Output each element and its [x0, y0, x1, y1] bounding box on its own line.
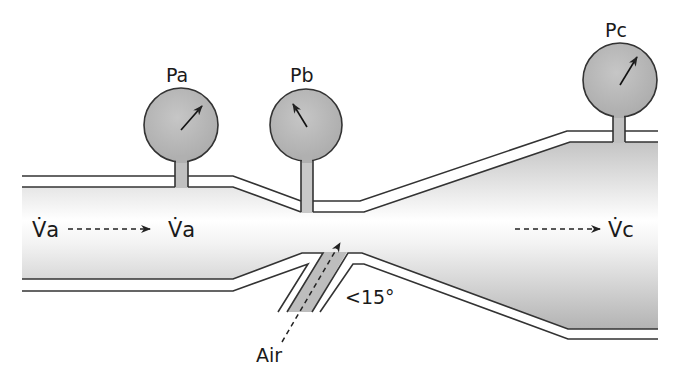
- flow-channel: [22, 142, 658, 329]
- gauge-pa: [144, 88, 218, 163]
- gauge-pb: [270, 89, 342, 163]
- gauge-stem-pb: [301, 155, 313, 213]
- air-label: Air: [256, 344, 282, 366]
- venturi-diagram: Pa Pb Pc V̇a V̇a V̇c Air <15°: [0, 0, 674, 380]
- gauge-label-pb: Pb: [290, 64, 314, 86]
- flow-label-inlet-mid: V̇a: [168, 217, 195, 242]
- flow-label-inlet: V̇a: [32, 217, 59, 242]
- gauge-label-pc: Pc: [605, 19, 627, 41]
- gauge-label-pa: Pa: [166, 64, 188, 86]
- gauge-pc: [583, 43, 657, 118]
- angle-label: <15°: [345, 286, 395, 308]
- flow-label-outlet: V̇c: [608, 217, 634, 242]
